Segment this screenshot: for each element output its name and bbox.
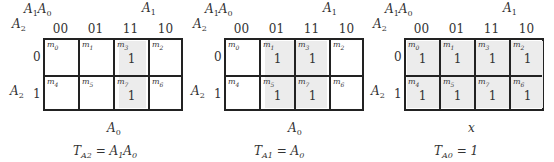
minterm-label: m7 xyxy=(298,77,309,88)
minterm-label: m7 xyxy=(117,77,128,88)
row-header: 0 xyxy=(33,50,41,64)
column-header: 10 xyxy=(148,22,183,36)
kmap-cell: m51 xyxy=(260,76,295,113)
cell-value: 1 xyxy=(295,89,330,103)
column-header: 01 xyxy=(259,22,294,36)
kmap-cell: m31 xyxy=(114,39,149,76)
cell-value: 1 xyxy=(510,52,545,66)
kmap-cell: m0 xyxy=(225,39,260,76)
kmap-cell: m2 xyxy=(330,39,365,76)
kmap-cell: m41 xyxy=(405,76,440,113)
cell-value: 1 xyxy=(114,89,149,103)
minterm-label: m3 xyxy=(117,40,128,51)
column-variables-label: A1A0 xyxy=(205,2,233,18)
row-variable-label: A2 xyxy=(193,17,207,33)
row-header: 1 xyxy=(33,87,41,101)
equation-ta0: TA0 = 1 xyxy=(434,144,478,160)
top-brace-label: A1 xyxy=(142,1,156,17)
cell-value: 1 xyxy=(295,52,330,66)
kmap-grid: m01m11m31m21m41m51m71m61 xyxy=(404,38,544,111)
kmap-cell: m0 xyxy=(44,39,79,76)
row-variable-label: A2 xyxy=(373,17,387,33)
row-header: 1 xyxy=(214,87,222,101)
grid-line xyxy=(226,75,362,77)
cell-value: 1 xyxy=(475,89,510,103)
minterm-label: m1 xyxy=(263,40,274,51)
cell-value: 1 xyxy=(260,89,295,103)
equation-ta1: TA1 = A0 xyxy=(254,144,304,160)
cell-value: 1 xyxy=(440,89,475,103)
minterm-label: m1 xyxy=(82,40,93,51)
kmap-cell: m71 xyxy=(114,76,149,113)
kmap-cell: m4 xyxy=(225,76,260,113)
column-header: 11 xyxy=(113,22,148,36)
minterm-label: m2 xyxy=(152,40,163,51)
kmap-cell: m31 xyxy=(295,39,330,76)
kmap-grid: m0m1m31m2m4m5m71m6 xyxy=(43,38,183,111)
bottom-brace-label: A0 xyxy=(288,121,302,137)
left-brace-label: A2 xyxy=(10,84,24,100)
minterm-label: m0 xyxy=(228,40,239,51)
kmap-ta0: A1A0A200011110A101A2m01m11m31m21m41m51m7… xyxy=(361,0,546,162)
minterm-label: m6 xyxy=(333,77,344,88)
kmap-cell: m31 xyxy=(475,39,510,76)
kmap-cell: m5 xyxy=(79,76,114,113)
row-header: 0 xyxy=(214,50,222,64)
cell-value: 1 xyxy=(440,52,475,66)
cell-value: 1 xyxy=(405,52,440,66)
top-brace-label: A1 xyxy=(503,1,517,17)
cell-value: 1 xyxy=(260,52,295,66)
minterm-label: m5 xyxy=(443,77,454,88)
equation-ta2: TA2 = A1A0 xyxy=(73,144,137,160)
kmap-cell: m11 xyxy=(260,39,295,76)
minterm-label: m0 xyxy=(47,40,58,51)
minterm-label: m5 xyxy=(263,77,274,88)
minterm-label: m2 xyxy=(513,40,524,51)
row-header: 1 xyxy=(394,87,402,101)
minterm-label: m4 xyxy=(228,77,239,88)
left-brace-label: A2 xyxy=(371,84,385,100)
column-variables-label: A1A0 xyxy=(24,2,52,18)
minterm-label: m0 xyxy=(408,40,419,51)
row-header: 0 xyxy=(394,50,402,64)
minterm-label: m1 xyxy=(443,40,454,51)
column-header: 00 xyxy=(43,22,78,36)
row-variable-label: A2 xyxy=(12,17,26,33)
minterm-label: m4 xyxy=(408,77,419,88)
kmap-cell: m71 xyxy=(295,76,330,113)
column-header: 01 xyxy=(78,22,113,36)
kmap-cell: m6 xyxy=(330,76,365,113)
kmap-cell: m1 xyxy=(79,39,114,76)
minterm-label: m6 xyxy=(152,77,163,88)
top-brace-label: A1 xyxy=(323,1,337,17)
cell-value: 1 xyxy=(114,52,149,66)
grid-line xyxy=(406,75,542,77)
column-header: 11 xyxy=(294,22,329,36)
minterm-label: m4 xyxy=(47,77,58,88)
minterm-label: m6 xyxy=(513,77,524,88)
bottom-brace-label: A0 xyxy=(107,121,121,137)
left-brace-label: A2 xyxy=(191,84,205,100)
bottom-brace-label: x xyxy=(468,121,475,135)
minterm-label: m2 xyxy=(333,40,344,51)
kmap-cell: m11 xyxy=(440,39,475,76)
column-header: 11 xyxy=(474,22,509,36)
column-header: 10 xyxy=(329,22,364,36)
cell-value: 1 xyxy=(475,52,510,66)
kmap-cell: m01 xyxy=(405,39,440,76)
kmap-cell: m4 xyxy=(44,76,79,113)
grid-line xyxy=(45,75,181,77)
column-header: 00 xyxy=(224,22,259,36)
kmap-cell: m6 xyxy=(149,76,184,113)
minterm-label: m3 xyxy=(478,40,489,51)
kmap-ta1: A1A0A200011110A101A2m0m11m31m2m4m51m71m6… xyxy=(181,0,366,162)
kmap-ta2: A1A0A200011110A101A2m0m1m31m2m4m5m71m6A0… xyxy=(0,0,185,162)
minterm-label: m3 xyxy=(298,40,309,51)
column-variables-label: A1A0 xyxy=(385,2,413,18)
kmap-cell: m51 xyxy=(440,76,475,113)
cell-value: 1 xyxy=(405,89,440,103)
column-header: 00 xyxy=(404,22,439,36)
kmap-cell: m2 xyxy=(149,39,184,76)
kmap-cell: m21 xyxy=(510,39,545,76)
minterm-label: m5 xyxy=(82,77,93,88)
